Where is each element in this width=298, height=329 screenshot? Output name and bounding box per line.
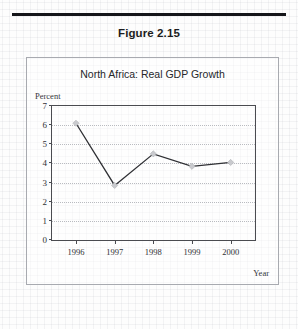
plot-area: 01234567 19961997199819992000 [51,105,256,241]
x-tick-mark [192,240,193,244]
y-tick-label: 5 [43,139,48,149]
top-rule-divider [12,13,286,16]
y-axis-label: Percent [35,91,61,101]
x-tick-label: 1997 [106,247,123,257]
figure-title: Figure 2.15 [0,27,298,39]
x-tick-label: 1999 [183,247,200,257]
x-tick-mark [153,240,154,244]
y-tick-label: 7 [43,101,48,111]
y-tick-label: 4 [43,158,48,168]
x-tick-label: 2000 [222,247,239,257]
x-tick-mark [231,240,232,244]
x-tick-label: 1996 [67,247,84,257]
y-tick-label: 1 [43,216,48,226]
chart-panel: North Africa: Real GDP Growth Percent Ye… [26,57,279,285]
data-point-marker [189,163,195,169]
x-tick-label: 1998 [145,247,162,257]
x-tick-mark [115,240,116,244]
x-axis-label: Year [253,268,269,278]
y-tick-label: 0 [43,235,48,245]
y-tick-label: 3 [43,178,48,188]
figure-page: Figure 2.15 North Africa: Real GDP Growt… [0,0,298,329]
y-tick-label: 6 [43,120,48,130]
chart-title: North Africa: Real GDP Growth [27,68,278,80]
data-point-marker [73,120,79,126]
data-series-line [52,106,255,240]
data-point-marker [228,159,234,165]
x-tick-mark [76,240,77,244]
y-tick-label: 2 [43,197,48,207]
